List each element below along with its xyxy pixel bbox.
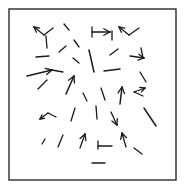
vector-field-plot	[0, 0, 186, 192]
vector-arrowhead	[85, 134, 86, 141]
figure-container	[0, 0, 186, 192]
